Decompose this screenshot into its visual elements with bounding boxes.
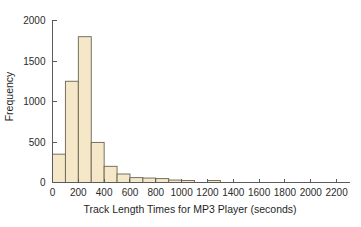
x-tick-label: 1400 — [222, 187, 245, 198]
x-tick-label: 0 — [50, 187, 56, 198]
y-tick-label: 500 — [29, 137, 46, 148]
x-axis-title: Track Length Times for MP3 Player (secon… — [83, 203, 296, 215]
x-tick-label: 1800 — [274, 187, 297, 198]
x-tick-label: 2000 — [300, 187, 323, 198]
x-tick-label: 1600 — [248, 187, 271, 198]
histogram-bar — [78, 37, 91, 183]
x-tick-label: 400 — [96, 187, 113, 198]
histogram-bar — [143, 178, 156, 182]
histogram-bar — [53, 154, 66, 182]
histogram-bar — [65, 81, 78, 182]
histogram-bar — [156, 179, 169, 183]
x-tick-label: 200 — [70, 187, 87, 198]
x-tick-label: 800 — [147, 187, 164, 198]
histogram-bar — [117, 174, 130, 183]
y-tick-label: 1000 — [23, 96, 46, 107]
histogram-bar — [91, 142, 104, 182]
histogram-bar — [104, 166, 117, 182]
x-tick-label: 1000 — [171, 187, 194, 198]
x-tick-label: 2200 — [325, 187, 348, 198]
y-axis-title: Frequency — [3, 71, 15, 121]
y-tick-label: 2000 — [23, 15, 46, 26]
y-tick-label: 1500 — [23, 56, 46, 67]
y-tick-label: 0 — [40, 177, 46, 188]
histogram-bar — [130, 178, 143, 183]
x-tick-label: 1200 — [196, 187, 219, 198]
histogram-plot: 0500100015002000020040060080010001200140… — [0, 0, 361, 227]
x-tick-label: 600 — [122, 187, 139, 198]
histogram-figure: 0500100015002000020040060080010001200140… — [0, 0, 361, 227]
